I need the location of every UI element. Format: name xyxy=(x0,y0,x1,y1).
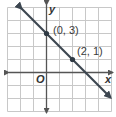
point-label-2-1: (2, 1) xyxy=(77,46,103,57)
data-point xyxy=(44,31,49,36)
y-axis-label: y xyxy=(49,4,55,15)
data-point xyxy=(70,57,75,62)
origin-label: O xyxy=(36,74,45,85)
point-label-0-3: (0, 3) xyxy=(53,25,79,36)
x-axis-label: x xyxy=(105,74,111,85)
coordinate-plane xyxy=(0,0,116,117)
